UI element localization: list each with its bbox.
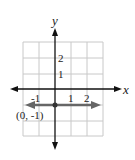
x-tick-1: 1	[68, 93, 74, 104]
point-label: (0, -1)	[16, 110, 44, 121]
x-tick-neg1: -1	[31, 93, 40, 104]
y-tick-1: 1	[58, 69, 64, 80]
x-axis-label: x	[123, 83, 129, 96]
x-axis	[10, 86, 122, 92]
x-tick-2: 2	[84, 93, 90, 104]
y-axis-label: y	[52, 14, 58, 27]
y-tick-2: 2	[58, 53, 64, 64]
coordinate-plane	[0, 0, 135, 160]
point-0-neg1	[53, 103, 58, 108]
